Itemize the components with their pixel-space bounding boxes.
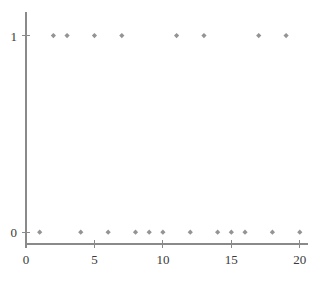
x-tick-label: 5	[91, 252, 98, 267]
x-tick-label: 10	[156, 252, 169, 267]
data-point	[133, 230, 138, 235]
data-point	[215, 230, 220, 235]
data-point	[119, 33, 124, 38]
data-point	[270, 230, 275, 235]
data-point	[242, 230, 247, 235]
data-point	[147, 230, 152, 235]
x-tick-label: 20	[293, 252, 306, 267]
chart-figure: 05101520 01	[0, 0, 322, 281]
data-point	[37, 230, 42, 235]
scatter-plot: 05101520 01	[0, 0, 322, 281]
y-tick-label: 1	[11, 29, 18, 44]
data-point-group	[37, 33, 302, 235]
data-point	[78, 230, 83, 235]
data-point	[188, 230, 193, 235]
y-tick-label: 0	[11, 225, 18, 240]
plot-axes	[26, 12, 308, 244]
data-point	[256, 33, 261, 38]
data-point	[283, 33, 288, 38]
data-point	[92, 33, 97, 38]
data-point	[229, 230, 234, 235]
data-point	[64, 33, 69, 38]
y-axis-ticks: 01	[11, 29, 31, 241]
data-point	[106, 230, 111, 235]
data-point	[51, 33, 56, 38]
data-point	[201, 33, 206, 38]
data-point	[297, 230, 302, 235]
data-point	[160, 230, 165, 235]
data-point	[174, 33, 179, 38]
x-tick-label: 15	[225, 252, 238, 267]
x-tick-label: 0	[23, 252, 30, 267]
